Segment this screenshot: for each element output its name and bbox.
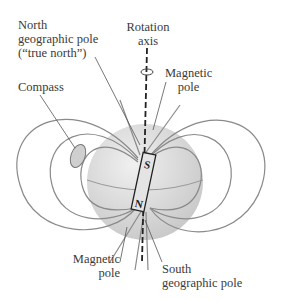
north-geographic-pole-label: North geographic pole (“true north”) [18, 18, 98, 60]
magnetic-pole-top-label: Magnetic pole [165, 66, 212, 94]
earth-magnetic-field-diagram: S N North geographic pole (“true north”)… [0, 0, 281, 301]
magnetic-pole-bottom-label: Magnetic pole [66, 252, 120, 280]
compass-label: Compass [18, 80, 64, 94]
compass-icon [67, 142, 88, 169]
rotation-axis-label: Rotation axis [118, 20, 178, 48]
south-geographic-pole-label: South geographic pole [162, 262, 242, 290]
